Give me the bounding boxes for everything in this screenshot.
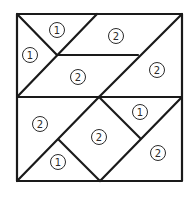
region-number: 2 [37,119,43,130]
region-number: 2 [75,72,81,83]
region-label-top-right-triangle: 2 [150,63,165,78]
region-label-bottom-right-triangle: 2 [151,146,166,161]
region-label-top-left-upper-triangle: 1 [50,23,65,38]
region-label-top-middle-trapezoid: 2 [109,29,124,44]
region-number: 1 [27,50,33,61]
region-number: 1 [55,157,61,168]
region-label-top-left-side-triangle: 1 [23,48,38,63]
region-number: 2 [154,65,160,76]
region-label-center-left-parallelogram: 2 [71,70,86,85]
region-number: 2 [96,132,102,143]
puzzle-diagram: 1122222112 [0,0,187,199]
region-label-bottom-center-square: 2 [92,130,107,145]
region-label-bottom-left-triangle: 2 [33,117,48,132]
region-label-bottom-small-triangle: 1 [51,155,66,170]
region-number: 2 [155,148,161,159]
region-number: 2 [113,31,119,42]
region-label-bottom-right-upper-triangle: 1 [133,105,148,120]
region-number: 1 [137,107,143,118]
region-number: 1 [54,25,60,36]
